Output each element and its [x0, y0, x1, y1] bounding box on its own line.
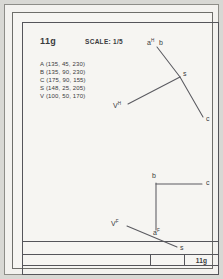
sheet-outer-border: 11g SCALE: 1/5 A (135, 45, 230) B (135, …: [12, 12, 213, 269]
title-block-upper-row: [22, 241, 219, 254]
title-block-id: 11g: [196, 257, 208, 264]
line-s-c-horizontal: [180, 77, 203, 117]
sheet-page: 11g SCALE: 1/5 A (135, 45, 230) B (135, …: [4, 4, 219, 275]
label-a-horizontal: aH: [147, 39, 154, 46]
label-v-horizontal: VH: [113, 102, 121, 109]
line-b-s-horizontal: [157, 47, 180, 77]
title-block: 11g: [22, 241, 219, 266]
label-v-frontal: VF: [111, 220, 118, 227]
label-c-horizontal: c: [206, 115, 210, 122]
line-v-s-horizontal: [128, 77, 180, 104]
drawing-canvas: [23, 23, 218, 274]
label-b-frontal: b: [152, 172, 156, 179]
drawing-frame: 11g SCALE: 1/5 A (135, 45, 230) B (135, …: [22, 22, 219, 275]
title-block-lower-row: 11g: [22, 254, 219, 266]
label-a-frontal: aF: [153, 229, 160, 236]
label-s-horizontal: s: [183, 70, 187, 77]
label-c-frontal: c: [206, 179, 210, 186]
geometry-svg: [23, 23, 218, 274]
title-block-cell-right: 11g: [151, 255, 218, 265]
title-block-cell-left: [23, 255, 151, 265]
label-b-horizontal: b: [159, 39, 163, 46]
title-block-id-cell: 11g: [184, 255, 218, 265]
